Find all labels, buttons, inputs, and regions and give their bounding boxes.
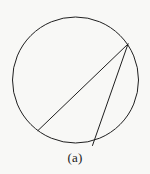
geometry-figure: (a): [0, 0, 150, 174]
chord-long: [38, 44, 128, 131]
circle-outline: [13, 17, 139, 143]
circle-chords-diagram: [0, 0, 150, 174]
chord-short: [93, 44, 129, 146]
figure-caption: (a): [0, 150, 150, 166]
